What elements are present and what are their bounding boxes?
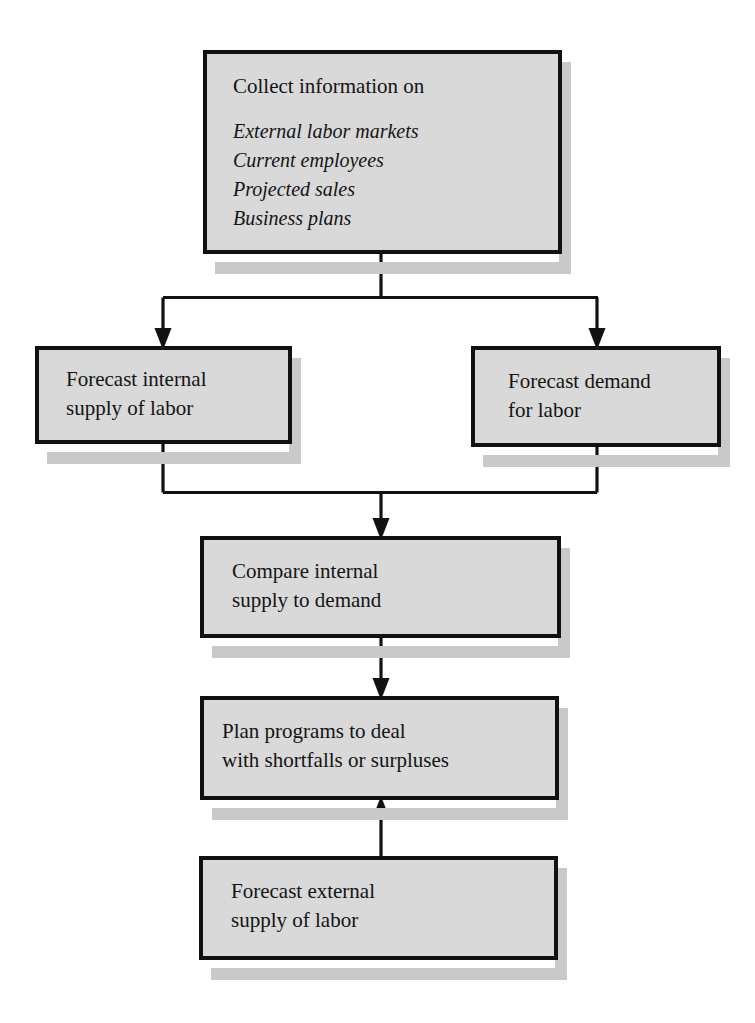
node-item-current-employees: Current employees (233, 149, 384, 172)
flowchart-canvas: Collect information on External labor ma… (0, 0, 755, 1023)
node-shadow-forecast-internal-supply (47, 452, 301, 464)
node-line-forecast-external-supply-1: Forecast external (231, 879, 375, 903)
node-shadow-plan-programs (212, 808, 568, 820)
node-line-forecast-demand-2: for labor (508, 398, 581, 422)
node-shadow-compare-internal-supply (212, 646, 570, 658)
node-line-plan-programs-2: with shortfalls or surpluses (222, 748, 449, 772)
node-line-compare-internal-supply-2: supply to demand (232, 588, 382, 612)
node-line-forecast-internal-supply-1: Forecast internal (66, 367, 207, 391)
node-line-forecast-internal-supply-2: supply of labor (66, 396, 193, 420)
node-shadow-forecast-demand (483, 455, 730, 467)
node-forecast-external-supply[interactable]: Forecast external supply of labor (201, 858, 567, 980)
node-line-compare-internal-supply-1: Compare internal (232, 559, 379, 583)
node-heading-collect-information: Collect information on (233, 74, 425, 98)
node-forecast-demand[interactable]: Forecast demand for labor (473, 348, 730, 467)
flowchart-diagram: Collect information on External labor ma… (0, 0, 755, 1023)
node-compare-internal-supply[interactable]: Compare internal supply to demand (202, 538, 570, 658)
node-shadow-collect-information (215, 262, 571, 274)
node-item-business-plans: Business plans (233, 207, 352, 230)
node-line-plan-programs-1: Plan programs to deal (222, 719, 406, 743)
node-line-forecast-demand-1: Forecast demand (508, 369, 651, 393)
node-line-forecast-external-supply-2: supply of labor (231, 908, 358, 932)
node-shadow-forecast-external-supply (211, 968, 567, 980)
node-plan-programs[interactable]: Plan programs to deal with shortfalls or… (202, 698, 568, 820)
node-item-external-labor-markets: External labor markets (232, 120, 419, 142)
node-forecast-internal-supply[interactable]: Forecast internal supply of labor (37, 348, 301, 464)
node-collect-information[interactable]: Collect information on External labor ma… (205, 52, 571, 274)
node-item-projected-sales: Projected sales (232, 178, 355, 201)
node-box-forecast-demand (473, 348, 719, 445)
